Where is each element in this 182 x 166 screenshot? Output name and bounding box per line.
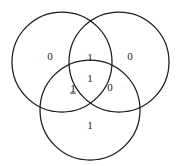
region-label-left-bottom-lens: 1 (70, 83, 76, 94)
venn-diagram-figure: 0 1 0 1 1 0 1 (0, 0, 182, 166)
region-label-left-only: 0 (47, 51, 53, 62)
region-label-bottom-only: 1 (87, 120, 93, 131)
region-label-top-lens: 1 (87, 52, 93, 63)
region-label-right-bottom-lens: 0 (107, 82, 113, 93)
venn-circle-top-left (12, 12, 112, 112)
venn-circle-top-right (69, 12, 169, 112)
region-label-right-only: 0 (127, 51, 133, 62)
region-label-center-all-three: 1 (87, 73, 93, 84)
